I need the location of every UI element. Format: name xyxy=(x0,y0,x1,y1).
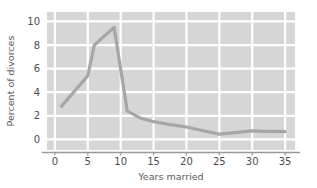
y-tick-label: 2 xyxy=(34,110,40,121)
y-tick-label: 6 xyxy=(34,63,40,74)
y-tick-label: 4 xyxy=(34,87,40,98)
x-tick-label: 10 xyxy=(114,156,127,167)
y-tick-label: 8 xyxy=(34,40,40,51)
y-tick-label: 0 xyxy=(34,134,40,145)
x-tick-label: 35 xyxy=(279,156,292,167)
x-tick-label: 20 xyxy=(180,156,193,167)
x-tick-label: 0 xyxy=(52,156,58,167)
x-tick-label: 30 xyxy=(246,156,259,167)
x-tick-label: 15 xyxy=(147,156,160,167)
x-tick-label: 5 xyxy=(85,156,91,167)
x-tick-label: 25 xyxy=(213,156,226,167)
y-tick-label: 10 xyxy=(27,16,40,27)
divorce-rate-line-chart: 0246810 05101520253035 Years married Per… xyxy=(0,0,317,188)
y-axis-label: Percent of divorces xyxy=(5,36,16,127)
x-axis-label: Years married xyxy=(137,171,203,182)
